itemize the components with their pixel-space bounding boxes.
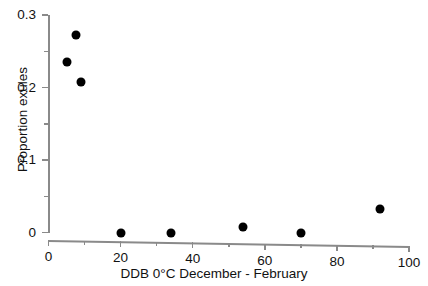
data-point	[239, 222, 248, 231]
x-tick-major	[192, 242, 194, 248]
data-point	[296, 228, 305, 237]
x-tick-minor	[84, 241, 86, 245]
x-tick-label: 20	[101, 251, 141, 265]
x-tick-major	[264, 244, 266, 250]
y-tick-minor	[44, 123, 48, 125]
y-tick-major	[42, 159, 48, 161]
y-axis-title: Proportion exules	[15, 40, 30, 200]
scatter-plot: 00.10.20.3 020406080100 Proportion exule…	[0, 0, 428, 286]
x-tick-major	[336, 245, 338, 251]
data-point	[76, 77, 85, 86]
y-tick-major	[42, 14, 48, 16]
data-point	[116, 228, 125, 237]
x-tick-minor	[156, 242, 158, 246]
data-point	[62, 58, 71, 67]
x-tick-major	[120, 241, 122, 247]
y-tick-label: 0.3	[0, 8, 36, 22]
data-point	[376, 204, 385, 213]
x-tick-label: 40	[173, 252, 213, 266]
x-tick-minor	[228, 243, 230, 247]
data-point	[167, 228, 176, 237]
y-axis-line	[48, 15, 50, 233]
x-axis-title: DDB 0°C December - February	[0, 266, 428, 281]
x-tick-major	[408, 246, 410, 252]
data-point	[71, 30, 80, 39]
x-tick-minor	[300, 244, 302, 248]
x-tick-minor	[372, 245, 374, 249]
y-tick-label: 0	[0, 226, 36, 240]
y-tick-minor	[44, 196, 48, 198]
x-tick-label: 0	[29, 250, 69, 264]
y-tick-minor	[44, 51, 48, 53]
y-tick-major	[42, 232, 48, 234]
x-tick-major	[48, 240, 50, 246]
y-tick-major	[42, 87, 48, 89]
